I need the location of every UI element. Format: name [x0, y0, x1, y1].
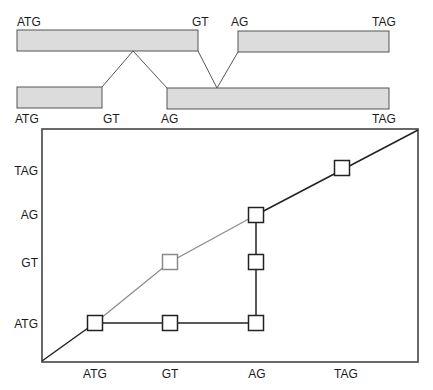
intron-connector-2	[198, 51, 238, 88]
exon-box-bottom-1	[17, 87, 102, 108]
site-label-top-gt: GT	[192, 15, 209, 29]
site-label-top-atg: ATG	[17, 15, 41, 29]
splice-alignment-diagram: ATGGTAGTAG ATGGTAGTAG TAGAGGTATGATGGTAGT…	[0, 0, 433, 390]
site-label-bottom-ag: AG	[161, 112, 178, 126]
site-label-bottom-gt: GT	[103, 112, 120, 126]
x-axis-label-atg: ATG	[83, 367, 107, 381]
intron-connector-1	[102, 51, 167, 88]
x-axis-label-gt: GT	[162, 367, 179, 381]
x-axis-label-tag: TAG	[334, 367, 358, 381]
match-node-gt-atg	[163, 316, 178, 331]
match-node-ag-ag	[249, 208, 264, 223]
y-axis-label-ag: AG	[21, 208, 38, 222]
site-label-top-ag: AG	[231, 15, 248, 29]
match-node-tag-tag	[335, 161, 350, 176]
gene-structure-top: ATGGTAGTAG	[17, 15, 396, 52]
y-axis-label-tag: TAG	[14, 164, 38, 178]
match-node-ag-gt	[249, 255, 264, 270]
match-node-atg-atg	[88, 316, 103, 331]
exon-box-bottom-2	[167, 88, 389, 109]
x-axis-label-ag: AG	[248, 367, 265, 381]
diagram-canvas: ATGGTAGTAG ATGGTAGTAG TAGAGGTATGATGGTAGT…	[0, 0, 433, 390]
dot-plot: TAGAGGTATGATGGTAGTAG	[14, 129, 418, 381]
match-node-gt-gt	[163, 255, 178, 270]
exon-box-top-2	[238, 31, 389, 52]
match-node-ag-atg	[249, 316, 264, 331]
gene-structure-bottom: ATGGTAGTAG	[15, 87, 396, 126]
site-label-bottom-atg: ATG	[15, 112, 39, 126]
site-label-bottom-tag: TAG	[372, 112, 396, 126]
exon-box-top-1	[17, 30, 198, 51]
site-label-top-tag: TAG	[372, 15, 396, 29]
y-axis-label-atg: ATG	[14, 317, 38, 331]
intron-connectors	[102, 51, 238, 88]
y-axis-label-gt: GT	[21, 256, 38, 270]
